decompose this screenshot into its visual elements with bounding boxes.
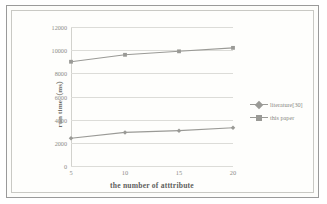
- series-line: [71, 48, 233, 62]
- chart-legend: literature[30]this paper: [250, 99, 320, 125]
- x-axis-title: the number of atttribute: [71, 181, 233, 190]
- gridline: [71, 166, 233, 167]
- plot-frame: run time（ms） the number of atttribute 02…: [11, 10, 314, 193]
- series-this-paper: [69, 46, 235, 64]
- legend-label: this paper: [268, 114, 294, 121]
- y-tick-label: 6000: [55, 93, 67, 100]
- series-line: [71, 128, 233, 138]
- data-point-marker: [69, 60, 73, 64]
- x-tick-label: 15: [176, 169, 182, 176]
- series-plot: [71, 27, 233, 166]
- legend-entry[interactable]: literature[30]: [250, 99, 320, 110]
- y-tick-label: 2000: [55, 139, 67, 146]
- data-point-marker: [231, 46, 235, 50]
- y-tick-label: 10000: [52, 47, 67, 54]
- data-point-marker: [123, 53, 127, 57]
- legend-square-marker-icon: [250, 113, 268, 122]
- legend-label: literature[30]: [268, 101, 303, 108]
- y-tick-label: 8000: [55, 70, 67, 77]
- data-point-marker: [177, 128, 182, 133]
- y-tick-label: 0: [64, 163, 67, 170]
- x-tick-label: 20: [230, 169, 236, 176]
- x-tick-label: 5: [69, 169, 72, 176]
- series-literature-30-: [69, 126, 236, 141]
- x-tick-label: 10: [122, 169, 128, 176]
- y-tick-label: 12000: [52, 24, 67, 31]
- data-point-marker: [177, 49, 181, 53]
- data-point-marker: [69, 136, 74, 141]
- legend-diamond-marker-icon: [250, 100, 268, 109]
- y-tick-label: 4000: [55, 116, 67, 123]
- data-point-marker: [231, 126, 236, 131]
- data-point-marker: [123, 130, 128, 135]
- figure-frame: run time（ms） the number of atttribute 02…: [6, 5, 319, 198]
- legend-entry[interactable]: this paper: [250, 112, 320, 123]
- plot-area: 020004000600080001000012000 5101520: [71, 27, 233, 166]
